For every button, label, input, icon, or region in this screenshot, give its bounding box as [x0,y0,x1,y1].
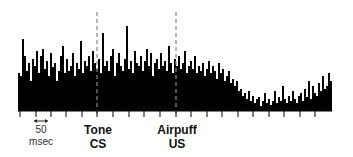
histogram-bar [234,86,236,111]
histogram-bar [190,61,192,111]
histogram-bar [238,91,240,111]
histogram-bar [210,73,212,111]
histogram-bar [44,69,46,111]
histogram-bar [24,56,26,111]
histogram-bar [220,73,222,111]
histogram-bar [58,71,60,111]
histogram-bar [182,63,184,111]
histogram-bar [20,76,22,111]
histogram-bar [102,33,104,111]
histogram-bars [18,26,332,111]
histogram-bar [142,71,144,111]
histogram-bar [314,93,316,111]
histogram-bar [180,69,182,111]
histogram-bar [224,81,226,111]
histogram-bar [56,81,58,111]
histogram-bar [296,103,298,111]
histogram-bar [264,93,266,111]
histogram-bar [162,66,164,111]
histogram-bar [52,67,54,111]
histogram-bar [26,71,28,111]
histogram-bar [116,63,118,111]
histogram-bar [208,61,210,111]
airpuff-label: Airpuff [152,123,202,137]
histogram-bar [82,73,84,111]
histogram-bar [138,66,140,111]
histogram-bar [170,63,172,111]
histogram-bar [228,71,230,111]
histogram-bar [34,66,36,111]
histogram-bar [252,96,254,111]
histogram-bar [280,101,282,111]
histogram-bar [122,71,124,111]
histogram-bar [310,99,312,111]
histogram-bar [204,76,206,111]
histogram-bar [216,79,218,111]
histogram-bar [316,96,318,111]
histogram-bar [156,59,158,111]
histogram-bar [100,73,102,111]
histogram-bar [246,99,248,111]
histogram-bar [260,106,262,111]
scale-bar-arrow [34,119,48,123]
histogram-bar [106,61,108,111]
cs-label: CS [78,137,118,151]
histogram-bar [140,56,142,111]
histogram-bar [166,71,168,111]
histogram-bar [254,103,256,111]
histogram-bar [328,73,330,111]
histogram-bar [330,81,332,111]
histogram-bar [200,71,202,111]
histogram-bar [84,61,86,111]
histogram-bar [266,103,268,111]
histogram-bar [250,101,252,111]
histogram-bar [28,63,30,111]
histogram-bar [318,83,320,111]
histogram-bar [46,61,48,111]
histogram-bar [206,69,208,111]
histogram-bar [144,61,146,111]
histogram-bar [36,51,38,111]
histogram-bar [196,73,198,111]
histogram-bar [90,71,92,111]
histogram-bar [326,86,328,111]
histogram-bar [146,49,148,111]
histogram-bar [236,81,238,111]
histogram-bar [188,66,190,111]
histogram-bar [40,56,42,111]
histogram-bar [92,51,94,111]
histogram-bar [88,56,90,111]
histogram-bar [136,63,138,111]
histogram-bar [274,91,276,111]
histogram-bar [312,86,314,111]
histogram-bar [306,97,308,111]
histogram-bar [222,69,224,111]
histogram-bar [126,26,128,111]
histogram-bar [168,46,170,111]
histogram-bar [108,71,110,111]
histogram-bar [68,71,70,111]
histogram-bar [164,61,166,111]
histogram-bar [242,96,244,111]
histogram-bar [66,59,68,111]
histogram-bar [304,89,306,111]
histogram-bar [308,81,310,111]
histogram-bar [76,63,78,111]
histogram-bar [212,66,214,111]
histogram-bar [288,96,290,111]
histogram-bar [298,96,300,111]
histogram-bar [74,76,76,111]
histogram-bar [124,59,126,111]
histogram-bar [112,49,114,111]
histogram-bar [114,76,116,111]
histogram-bar [94,63,96,111]
histogram-bar [48,76,50,111]
histogram-bar [134,51,136,111]
histogram-bar [258,97,260,111]
histogram-bar [50,53,52,111]
tone-label: Tone [78,123,118,137]
histogram-bar [322,76,324,111]
histogram-bar [214,71,216,111]
histogram-bar [262,101,264,111]
us-label: US [152,137,202,151]
